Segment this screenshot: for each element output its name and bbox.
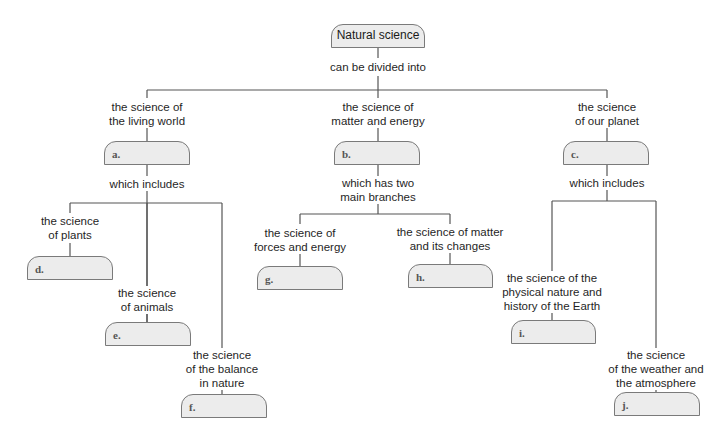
- node-d-label: the science of plants: [41, 214, 99, 242]
- branch-a-label: the science of the living world: [109, 100, 185, 128]
- branch-a-link-label: which includes: [110, 177, 185, 191]
- box-letter: i.: [519, 327, 525, 339]
- root-link-label: can be divided into: [330, 60, 426, 74]
- box-letter: j.: [622, 399, 628, 411]
- root-label: Natural science: [337, 28, 420, 42]
- branch-c-link-label: which includes: [570, 176, 645, 190]
- node-f-label: the science of the balance in nature: [186, 348, 258, 390]
- box-letter: b.: [342, 148, 351, 160]
- branch-c-label: the science of our planet: [575, 100, 639, 128]
- box-letter: c.: [571, 148, 579, 160]
- answer-box-i[interactable]: i.: [511, 320, 596, 344]
- node-i-label: the science of the physical nature and h…: [502, 271, 602, 313]
- node-g-label: the science of forces and energy: [254, 226, 346, 254]
- box-letter: f.: [189, 401, 195, 413]
- answer-box-e[interactable]: e.: [105, 322, 191, 346]
- box-letter: d.: [35, 263, 44, 275]
- branch-b-label: the science of matter and energy: [331, 100, 424, 128]
- answer-box-j[interactable]: j.: [614, 392, 700, 416]
- node-e-label: the science of animals: [118, 286, 176, 314]
- node-h-label: the science of matter and its changes: [397, 225, 504, 253]
- answer-box-a[interactable]: a.: [104, 141, 190, 165]
- answer-box-g[interactable]: g.: [257, 266, 343, 290]
- box-letter: e.: [113, 329, 121, 341]
- answer-box-f[interactable]: f.: [181, 394, 267, 418]
- answer-box-b[interactable]: b.: [334, 141, 420, 165]
- answer-box-c[interactable]: c.: [563, 141, 649, 165]
- answer-box-h[interactable]: h.: [408, 264, 493, 288]
- node-j-label: the science of the weather and the atmos…: [608, 348, 703, 390]
- box-letter: h.: [416, 271, 425, 283]
- box-letter: g.: [265, 273, 273, 285]
- branch-b-link-label: which has two main branches: [340, 176, 415, 204]
- answer-box-d[interactable]: d.: [27, 256, 113, 280]
- box-letter: a.: [112, 148, 120, 160]
- root-node: Natural science: [331, 24, 425, 48]
